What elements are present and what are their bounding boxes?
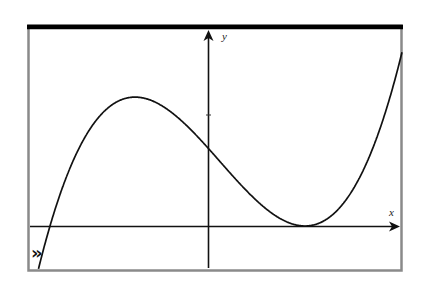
plot-frame bbox=[29, 26, 402, 271]
function-graph: y x » bbox=[0, 0, 423, 283]
y-axis-label: y bbox=[221, 30, 227, 42]
double-chevron-icon: » bbox=[31, 242, 43, 263]
x-axis-label: x bbox=[388, 206, 394, 218]
